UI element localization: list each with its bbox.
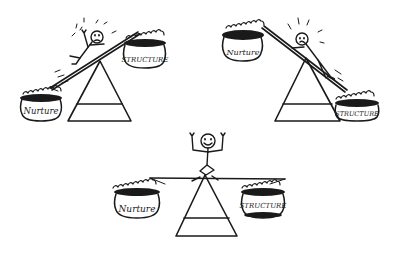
scale-left-heavy: Nurture STRUCTURE	[20, 18, 168, 121]
balance-beam	[262, 26, 347, 92]
fulcrum-triangle	[176, 175, 237, 236]
stick-figure-happy	[190, 133, 225, 181]
pot-nurture: Nurture	[20, 86, 62, 121]
balance-illustration: Nurture STRUCTURE	[0, 0, 403, 254]
pot-nurture: Nurture	[222, 20, 264, 61]
scale-balanced: Nurture STRUCTURE	[113, 133, 286, 236]
pot-structure: STRUCTURE	[335, 91, 379, 121]
scale-right-heavy: Nurture STRUCTURE	[222, 18, 379, 121]
pot-structure: STRUCTURE	[122, 30, 169, 68]
pot-label-nurture: Nurture	[226, 48, 260, 57]
pot-label-nurture: Nurture	[23, 106, 59, 116]
stick-figure-upset	[70, 30, 104, 64]
pot-label-structure: STRUCTURE	[335, 110, 379, 118]
pot-label-structure: STRUCTURE	[122, 56, 169, 64]
fulcrum-triangle	[275, 58, 340, 121]
pot-structure: STRUCTURE	[240, 179, 287, 218]
pot-nurture: Nurture	[113, 178, 165, 218]
pot-label-nurture: Nurture	[117, 204, 155, 214]
motion-lines	[288, 18, 343, 81]
pot-label-structure: STRUCTURE	[240, 202, 287, 210]
